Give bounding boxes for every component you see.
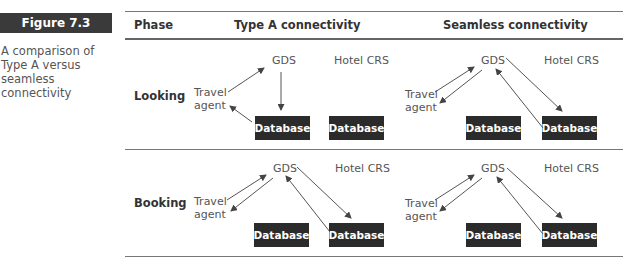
connection-arrows bbox=[0, 0, 631, 269]
